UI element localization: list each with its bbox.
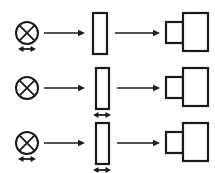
row-3 [16, 123, 208, 173]
beam-arrow-sample-to-detector [117, 85, 160, 91]
arrow-head [78, 140, 85, 146]
light-source [16, 77, 38, 99]
beam-arrow-source-to-sample [44, 30, 85, 36]
sample-translation-arrow [93, 112, 111, 118]
sample-rect [96, 68, 109, 109]
sample-rect [96, 123, 109, 164]
beam-arrow-source-to-sample [44, 140, 85, 146]
row-2 [16, 68, 208, 118]
double-arrow-head-right [31, 156, 37, 162]
double-arrow-head-left [93, 112, 99, 118]
beam-arrow-sample-to-detector [117, 140, 160, 146]
detector-body [183, 13, 208, 51]
arrow-head [78, 85, 85, 91]
detector [166, 68, 208, 106]
optical-setup-diagram [0, 0, 215, 173]
diagram-canvas [0, 0, 215, 173]
double-arrow-head-right [106, 112, 112, 118]
double-arrow-head-right [31, 46, 37, 52]
detector-body [183, 68, 208, 106]
detector [166, 123, 208, 161]
light-source [16, 22, 38, 44]
double-arrow-head-left [18, 156, 24, 162]
arrow-head [78, 30, 85, 36]
arrow-head [153, 30, 160, 36]
detector-window [166, 22, 183, 43]
row-1 [16, 13, 208, 54]
double-arrow-head-right [106, 167, 112, 173]
sample-aperture [93, 13, 107, 54]
detector [166, 13, 208, 51]
arrow-head [153, 140, 160, 146]
sample-aperture [96, 123, 109, 164]
source-translation-arrow [18, 156, 36, 162]
double-arrow-head-left [18, 46, 24, 52]
double-arrow-head-left [93, 167, 99, 173]
detector-window [166, 132, 183, 153]
beam-arrow-sample-to-detector [115, 30, 160, 36]
sample-translation-arrow [93, 167, 111, 173]
beam-arrow-source-to-sample [44, 85, 85, 91]
source-translation-arrow [18, 46, 36, 52]
light-source [16, 132, 38, 154]
sample-aperture [96, 68, 109, 109]
detector-body [183, 123, 208, 161]
detector-window [166, 77, 183, 98]
arrow-head [153, 85, 160, 91]
sample-rect [93, 13, 107, 54]
